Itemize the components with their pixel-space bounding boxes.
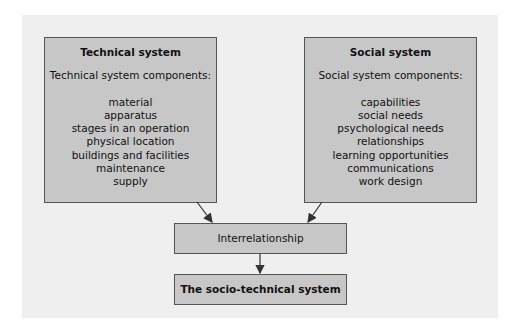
- arrow-icon: [197, 202, 212, 222]
- arrow-icon: [308, 202, 322, 222]
- connector-arrows: [0, 0, 521, 333]
